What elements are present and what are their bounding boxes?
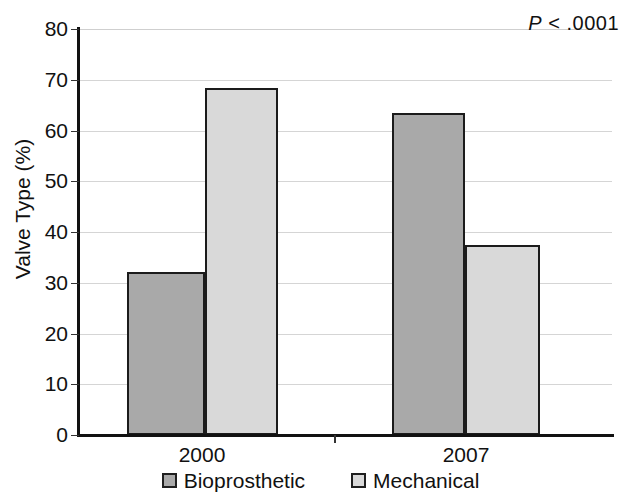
bar-2000-bioprosthetic (127, 272, 205, 435)
y-tick-mark-60 (71, 131, 79, 132)
legend-swatch-mechanical (351, 473, 366, 488)
x-category-label-2007: 2007 (406, 443, 526, 467)
p-value-text: < .0001 (542, 12, 619, 34)
gridline-50 (79, 181, 612, 182)
gridline-60 (79, 131, 612, 132)
bar-2007-bioprosthetic (392, 113, 465, 435)
bar-2007-mechanical (465, 245, 540, 435)
y-tick-mark-50 (71, 181, 79, 182)
y-tick-label-0: 0 (26, 424, 68, 445)
y-tick-mark-80 (71, 29, 79, 30)
y-tick-mark-70 (71, 80, 79, 81)
x-tick-mark-mid (334, 435, 336, 443)
gridline-70 (79, 80, 612, 81)
legend-label-mechanical: Mechanical (373, 470, 479, 491)
bar-2000-mechanical (205, 88, 278, 435)
y-tick-label-20: 20 (26, 323, 68, 344)
x-category-label-2000: 2000 (142, 443, 262, 467)
p-value-symbol: P (528, 12, 542, 34)
y-axis-title: Valve Type (%) (11, 94, 35, 324)
bar-chart-figure: 80 70 60 50 40 30 20 10 0 Valve Type (%)… (0, 0, 641, 501)
legend-item-bioprosthetic: Bioprosthetic (162, 470, 305, 491)
y-tick-label-70: 70 (26, 69, 68, 90)
legend-swatch-bioprosthetic (162, 473, 177, 488)
x-axis-line (77, 434, 614, 437)
y-tick-mark-20 (71, 334, 79, 335)
y-tick-mark-30 (71, 283, 79, 284)
legend-item-mechanical: Mechanical (351, 470, 479, 491)
legend-label-bioprosthetic: Bioprosthetic (184, 470, 305, 491)
y-tick-mark-0 (71, 435, 79, 436)
y-tick-label-80: 80 (26, 18, 68, 39)
plot-area (79, 29, 612, 435)
gridline-40 (79, 232, 612, 233)
chart-legend: Bioprosthetic Mechanical (0, 470, 641, 491)
p-value-annotation: P < .0001 (528, 12, 619, 35)
y-tick-label-10: 10 (26, 373, 68, 394)
y-tick-mark-10 (71, 384, 79, 385)
y-tick-mark-40 (71, 232, 79, 233)
